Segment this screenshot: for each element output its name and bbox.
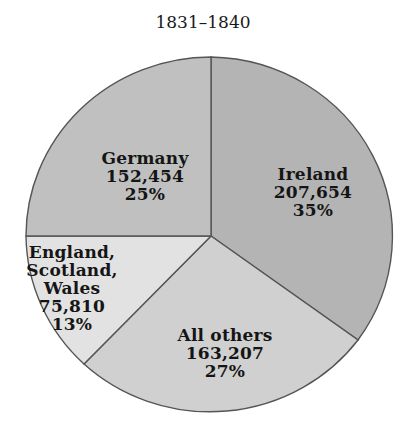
- others-value: 163,207: [165, 344, 285, 362]
- england-line3: Wales: [22, 279, 122, 297]
- others-percent: 27%: [165, 362, 285, 380]
- germany-value: 152,454: [85, 167, 205, 185]
- label-ireland: Ireland 207,654 35%: [258, 165, 368, 219]
- germany-percent: 25%: [85, 185, 205, 203]
- germany-name: Germany: [85, 149, 205, 167]
- england-line1: England,: [22, 243, 122, 261]
- england-percent: 13%: [22, 315, 122, 333]
- slice-germany: [26, 57, 211, 236]
- label-all-others: All others 163,207 27%: [165, 326, 285, 380]
- label-england-scotland-wales: England, Scotland, Wales 75,810 13%: [22, 243, 122, 333]
- england-line2: Scotland,: [22, 261, 122, 279]
- others-name: All others: [165, 326, 285, 344]
- england-value: 75,810: [22, 297, 122, 315]
- ireland-value: 207,654: [258, 183, 368, 201]
- label-germany: Germany 152,454 25%: [85, 149, 205, 203]
- ireland-percent: 35%: [258, 201, 368, 219]
- ireland-name: Ireland: [258, 165, 368, 183]
